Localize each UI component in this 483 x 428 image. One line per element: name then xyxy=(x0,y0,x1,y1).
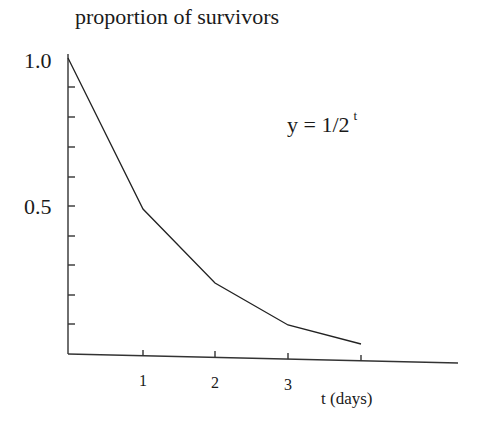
y-ticks xyxy=(68,87,75,324)
x-axis xyxy=(68,354,458,363)
plot-area xyxy=(0,0,483,428)
survival-curve xyxy=(68,58,361,344)
